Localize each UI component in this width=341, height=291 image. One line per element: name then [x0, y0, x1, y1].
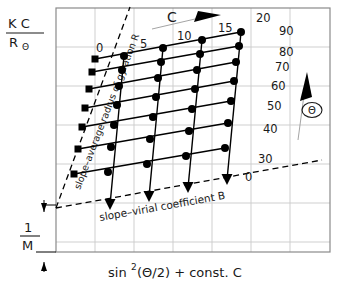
y-axis-denominator: R — [9, 35, 18, 50]
x-axis-label-rest: (Θ/2) + const. C — [137, 265, 242, 280]
marker-circle — [115, 82, 123, 90]
angle-label-90: 90 — [279, 24, 294, 38]
concentration-label-10: 10 — [177, 29, 192, 43]
marker-circle — [185, 127, 193, 135]
marker-square — [82, 105, 89, 112]
angle-label-80: 80 — [279, 45, 294, 59]
marker-circle — [221, 144, 229, 152]
marker-square — [89, 69, 96, 76]
marker-circle — [104, 168, 112, 176]
x-axis-label-exponent: 2 — [131, 262, 137, 272]
intercept-label-1-over-M: 1 M — [20, 220, 40, 253]
marker-circle — [143, 160, 151, 168]
y-axis-denominator-subscript: Θ — [22, 42, 29, 52]
marker-circle — [227, 97, 235, 105]
x-axis-label-main: sin — [108, 265, 127, 280]
x-axis-label: sin 2 (Θ/2) + const. C — [108, 262, 242, 280]
marker-square — [79, 124, 86, 131]
marker-circle — [188, 105, 196, 113]
concentration-label-20: 20 — [256, 11, 271, 25]
angle-label-40: 40 — [263, 122, 278, 136]
concentration-label-15: 15 — [218, 21, 233, 35]
y-axis-label: K C R Θ — [6, 16, 44, 52]
intercept-numerator: 1 — [24, 220, 32, 235]
intercept-denominator: M — [22, 238, 33, 253]
marker-circle — [118, 66, 126, 74]
intercept-arrow-up-head — [41, 203, 47, 212]
marker-circle — [113, 101, 121, 109]
angle-label-70: 70 — [275, 60, 290, 74]
figure-canvas: K C R Θ sin 2 (Θ/2) + const. C 1 M — [0, 0, 341, 291]
marker-circle — [149, 113, 157, 121]
zimm-plot-figure: K C R Θ sin 2 (Θ/2) + const. C 1 M — [0, 0, 341, 291]
angle-arrow-label: Θ — [308, 105, 316, 116]
marker-circle — [196, 50, 204, 58]
angle-label-30: 30 — [258, 152, 273, 166]
marker-circle — [224, 119, 232, 127]
angle-label-0: 0 — [245, 170, 252, 184]
marker-square — [92, 56, 99, 63]
marker-circle — [146, 135, 154, 143]
concentration-label-0: 0 — [96, 41, 103, 55]
marker-circle — [237, 28, 245, 36]
marker-circle — [152, 93, 160, 101]
y-axis-numerator: K C — [8, 16, 30, 31]
marker-circle — [191, 85, 199, 93]
marker-square — [86, 86, 93, 93]
marker-circle — [107, 143, 115, 151]
marker-circle — [159, 44, 167, 52]
marker-circle — [120, 52, 128, 60]
marker-circle — [110, 121, 118, 129]
marker-square — [71, 171, 78, 178]
intercept-arrow-down-head — [41, 262, 47, 271]
marker-circle — [193, 66, 201, 74]
marker-circle — [235, 42, 243, 50]
concentration-arrow-label: C — [167, 9, 177, 25]
marker-circle — [232, 58, 240, 66]
marker-square — [75, 146, 82, 153]
marker-circle — [157, 58, 165, 66]
marker-circle — [230, 77, 238, 85]
marker-circle — [154, 74, 162, 82]
angle-label-60: 60 — [271, 79, 286, 93]
marker-circle — [182, 152, 190, 160]
marker-circle — [198, 36, 206, 44]
concentration-label-5: 5 — [140, 37, 147, 51]
angle-label-50: 50 — [267, 99, 282, 113]
